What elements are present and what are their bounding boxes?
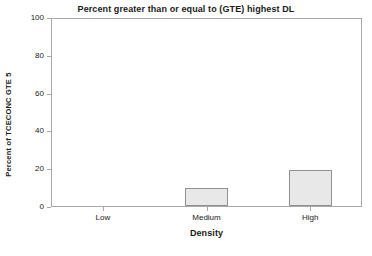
x-tick-mark <box>103 207 104 211</box>
x-tick-mark <box>310 207 311 211</box>
y-tick-label: 20 <box>35 163 44 174</box>
x-tick-label: High <box>270 213 350 222</box>
y-tick-mark <box>47 169 51 170</box>
y-tick-mark <box>47 207 51 208</box>
bar-high <box>289 170 332 206</box>
y-tick-mark <box>47 131 51 132</box>
y-axis-tick: 20 <box>0 169 51 170</box>
y-tick-label: 60 <box>35 88 44 99</box>
y-axis-title: Percent of TCECONC GTE 5 <box>3 30 15 219</box>
x-tick-label: Medium <box>167 213 247 222</box>
y-axis-tick: 0 <box>0 207 51 208</box>
plot-area <box>51 18 362 207</box>
y-tick-label: 40 <box>35 125 44 136</box>
y-tick-label: 0 <box>40 201 44 212</box>
x-axis-title: Density <box>51 228 362 238</box>
chart-title: Percent greater than or equal to (GTE) h… <box>0 4 372 14</box>
bar-chart: Percent greater than or equal to (GTE) h… <box>0 0 372 256</box>
y-axis-tick: 100 <box>0 18 51 19</box>
y-tick-mark <box>47 18 51 19</box>
y-tick-label: 100 <box>31 12 44 23</box>
x-tick-mark <box>207 207 208 211</box>
bar-medium <box>185 188 228 206</box>
y-tick-mark <box>47 94 51 95</box>
y-axis-tick: 40 <box>0 131 51 132</box>
x-tick-label: Low <box>63 213 143 222</box>
y-tick-label: 80 <box>35 50 44 61</box>
y-axis-tick: 60 <box>0 94 51 95</box>
y-tick-mark <box>47 56 51 57</box>
y-axis-tick: 80 <box>0 56 51 57</box>
